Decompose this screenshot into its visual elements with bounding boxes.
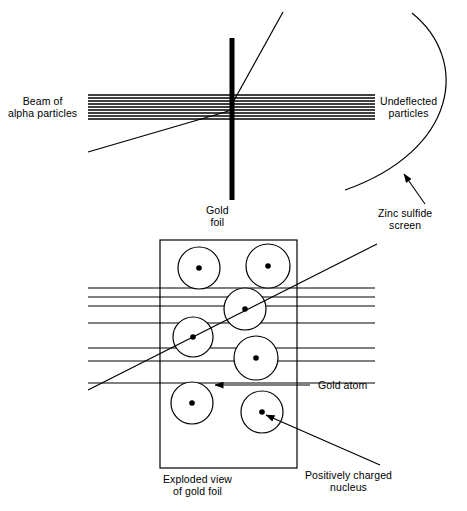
scattered-particle-path: [88, 244, 377, 390]
gold-atom-nucleus-6: [189, 400, 195, 406]
upward-deflected-ray: [232, 12, 283, 104]
gold-atom-nucleus-7: [259, 409, 265, 415]
label-beam-of-alpha-particles: Beam of alpha particles: [8, 96, 77, 119]
diagram-canvas: [0, 0, 467, 511]
nucleus-pointer-arrow: [266, 415, 380, 465]
zinc-sulfide-pointer-arrow: [404, 174, 425, 204]
label-positively-charged-nucleus: Positively charged nucleus: [305, 470, 392, 493]
gold-foil-bar: [230, 38, 235, 200]
gold-atom-nucleus-5: [253, 355, 259, 361]
label-exploded-view-of-gold-foil: Exploded view of gold foil: [163, 474, 232, 497]
label-zinc-sulfide-screen: Zinc sulfide screen: [378, 208, 432, 231]
rutherford-experiment-diagram: Beam of alpha particles Undeflected part…: [0, 0, 467, 511]
label-gold-atom: Gold atom: [318, 380, 367, 392]
label-gold-foil: Gold foil: [206, 205, 229, 228]
label-undeflected-particles: Undeflected particles: [380, 96, 437, 119]
deflected-ray-lines: [88, 12, 283, 152]
gold-atom-nucleus-1: [196, 265, 202, 271]
gold-atom-nucleus-2: [265, 263, 271, 269]
